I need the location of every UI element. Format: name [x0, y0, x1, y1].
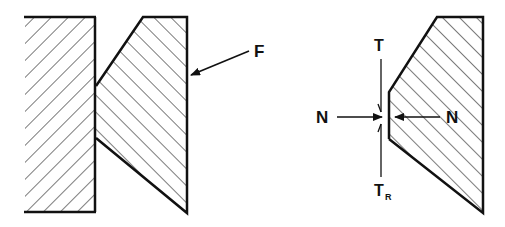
right-figure: T T R N N: [316, 17, 483, 213]
normal-right-label: N: [446, 108, 458, 127]
normal-force-left: N: [316, 108, 382, 127]
diagram-canvas: F T T R N N: [0, 0, 505, 227]
tangent-bottom-label: T: [374, 182, 384, 199]
normal-left-label: N: [316, 108, 328, 127]
tangent-force-top: T: [374, 37, 384, 112]
wedge-body: [96, 17, 187, 213]
tangent-bottom-subscript: R: [385, 192, 392, 202]
left-figure: F: [24, 17, 264, 213]
tangent-top-label: T: [374, 37, 384, 54]
left-block: [24, 17, 96, 212]
force-f-label: F: [254, 42, 264, 61]
force-f-arrow: F: [191, 42, 264, 75]
wedge-free-body: [389, 17, 483, 213]
